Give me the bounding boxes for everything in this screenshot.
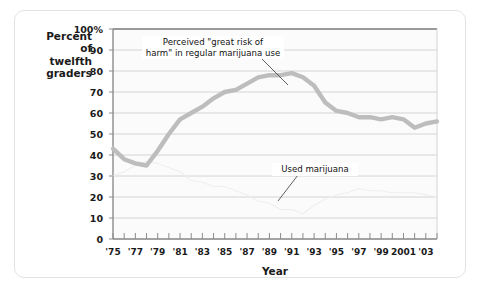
annotation-used-marijuana: Used marijuana	[272, 163, 358, 176]
x-tick-label: '79	[150, 247, 165, 257]
x-tick-label: '89	[262, 247, 277, 257]
y-tick-label: 0	[65, 234, 103, 245]
y-tick-label: 60	[65, 108, 103, 119]
x-tick-label: '85	[217, 247, 232, 257]
y-tick-label: 10	[65, 213, 103, 224]
y-tick-label: 70	[65, 87, 103, 98]
x-tick-label: '93	[306, 247, 321, 257]
x-tick-label: '81	[172, 247, 187, 257]
y-tick-label: 100%	[65, 24, 103, 35]
chart-figure: Percent of twelfth graders 0102030405060…	[0, 0, 487, 296]
y-tick-label: 50	[65, 129, 103, 140]
x-tick-label: '97	[351, 247, 366, 257]
x-axis-title: Year	[262, 265, 288, 277]
x-tick-label: '03	[418, 247, 433, 257]
x-tick-label: '83	[195, 247, 210, 257]
x-tick-label: '75	[105, 247, 120, 257]
x-tick-label: '77	[128, 247, 143, 257]
annotation-perceived-great-risk: Perceived "great risk of harm" in regula…	[142, 36, 284, 59]
x-tick-label: 2001	[391, 247, 416, 257]
y-tick-label: 80	[65, 66, 103, 77]
x-tick-label: '91	[284, 247, 299, 257]
y-tick-label: 90	[65, 45, 103, 56]
y-tick-label: 30	[65, 171, 103, 182]
x-tick-label: '95	[329, 247, 344, 257]
y-tick-label: 40	[65, 150, 103, 161]
y-tick-label: 20	[65, 192, 103, 203]
x-tick-label: '99	[373, 247, 388, 257]
x-tick-label: '87	[239, 247, 254, 257]
